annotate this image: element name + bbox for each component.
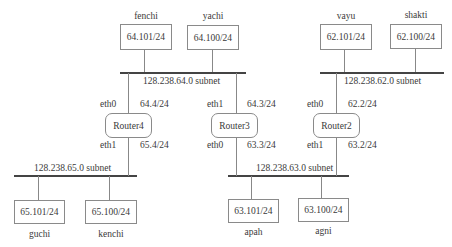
- host-ip-agni: 63.100/24: [304, 205, 342, 215]
- subnet-62-bus: [320, 72, 444, 74]
- host-fenchi[interactable]: 64.101/24: [120, 24, 172, 50]
- host-vayu[interactable]: 62.101/24: [320, 24, 372, 50]
- router2-top-iface: eth0: [307, 99, 323, 110]
- host-ip-guchi: 65.101/24: [20, 207, 58, 217]
- router3-bottom-ip: 63.3/24: [247, 140, 276, 151]
- host-name-yachi: yachi: [187, 11, 239, 22]
- router2-bottom-iface: eth1: [307, 140, 323, 151]
- fenchi-link: [144, 50, 145, 72]
- host-name-shakti: shakti: [390, 10, 442, 21]
- yachi-link: [212, 50, 213, 72]
- router4-label: Router4: [113, 121, 144, 131]
- router4-top-ip: 64.4/24: [140, 99, 169, 110]
- host-ip-vayu: 62.101/24: [327, 32, 365, 42]
- subnet-63-bus: [228, 175, 349, 177]
- router4-bottom-ip: 65.4/24: [140, 140, 169, 151]
- router2[interactable]: Router2: [313, 113, 360, 138]
- host-ip-yachi: 64.100/24: [194, 33, 232, 43]
- host-shakti[interactable]: 62.100/24: [390, 24, 442, 49]
- host-name-apah: apah: [228, 227, 279, 238]
- router3[interactable]: Router3: [211, 113, 258, 138]
- host-name-vayu: vayu: [320, 11, 372, 22]
- router4-top-iface: eth0: [100, 99, 116, 110]
- kenchi-link: [109, 176, 110, 200]
- host-kenchi[interactable]: 65.100/24: [85, 200, 137, 224]
- subnet-65-bus: [14, 175, 137, 177]
- subnet-63-label: 128.238.63.0 subnet: [256, 163, 333, 174]
- apah-link: [251, 176, 252, 199]
- host-yachi[interactable]: 64.100/24: [187, 25, 239, 50]
- router2-label: Router2: [321, 121, 352, 131]
- host-name-agni: agni: [298, 226, 349, 237]
- router3-top-ip: 64.3/24: [247, 99, 276, 110]
- router4[interactable]: Router4: [105, 113, 152, 138]
- router4-bottom-iface: eth1: [100, 140, 116, 151]
- router3-top-iface: eth1: [207, 99, 223, 110]
- subnet-64-bus: [120, 72, 246, 74]
- shakti-link: [415, 49, 416, 72]
- router3-label: Router3: [219, 121, 250, 131]
- host-name-fenchi: fenchi: [120, 11, 172, 22]
- host-name-kenchi: kenchi: [85, 229, 137, 240]
- host-ip-kenchi: 65.100/24: [92, 207, 130, 217]
- host-agni[interactable]: 63.100/24: [298, 198, 349, 222]
- vayu-link: [344, 50, 345, 72]
- router2-bottom-ip: 63.2/24: [348, 140, 377, 151]
- subnet-65-label: 128.238.65.0 subnet: [34, 163, 111, 174]
- router3-bottom-iface: eth0: [207, 140, 223, 151]
- agni-link: [321, 176, 322, 198]
- host-name-guchi: guchi: [14, 229, 65, 240]
- host-ip-apah: 63.101/24: [234, 206, 272, 216]
- host-ip-shakti: 62.100/24: [397, 32, 435, 42]
- host-guchi[interactable]: 65.101/24: [14, 200, 65, 224]
- host-apah[interactable]: 63.101/24: [228, 199, 279, 223]
- subnet-62-label: 128.238.62.0 subnet: [344, 76, 421, 87]
- guchi-link: [38, 176, 39, 200]
- subnet-64-label: 128.238.64.0 subnet: [143, 76, 220, 87]
- host-ip-fenchi: 64.101/24: [127, 32, 165, 42]
- router2-top-ip: 62.2/24: [348, 99, 377, 110]
